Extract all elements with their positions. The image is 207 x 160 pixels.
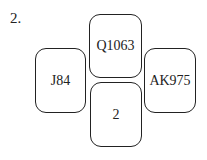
box-bottom: 2 bbox=[90, 82, 142, 147]
question-number: 2. bbox=[10, 10, 21, 27]
box-top-text: Q1063 bbox=[96, 38, 134, 54]
box-top: Q1063 bbox=[89, 14, 142, 78]
box-right: AK975 bbox=[144, 48, 196, 113]
box-bottom-text: 2 bbox=[113, 107, 120, 123]
box-left: J84 bbox=[35, 48, 86, 113]
box-left-text: J84 bbox=[51, 73, 70, 89]
box-right-text: AK975 bbox=[149, 73, 190, 89]
